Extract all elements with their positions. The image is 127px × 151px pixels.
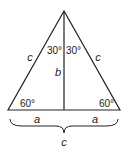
base-angle-right: 60°	[99, 98, 114, 109]
base-angle-left: 60°	[20, 98, 35, 109]
apex-angle-right: 30°	[66, 45, 81, 56]
altitude-label: b	[55, 66, 61, 78]
base-half-label-right: a	[92, 113, 98, 125]
base-total-label: c	[61, 136, 67, 148]
triangle-diagram: 30° 30° c c b 60° 60° a a c	[0, 0, 127, 151]
base-half-label-left: a	[34, 113, 40, 125]
base-brace	[10, 119, 118, 133]
side-label-right: c	[95, 51, 101, 63]
side-label-left: c	[27, 51, 33, 63]
apex-angle-left: 30°	[47, 45, 62, 56]
